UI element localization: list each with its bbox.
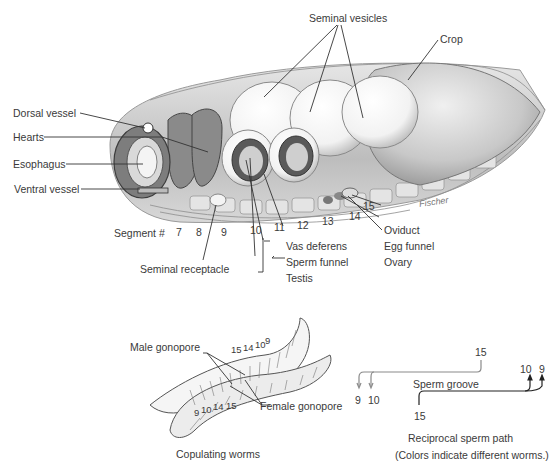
- sperm-path-top-end: 9: [355, 394, 361, 406]
- label-egg-funnel: Egg funnel: [384, 240, 434, 252]
- label-sperm-groove: Sperm groove: [413, 378, 479, 390]
- label-vas-deferens: Vas deferens: [286, 240, 347, 252]
- segment-number: 7: [176, 226, 182, 238]
- lower-segment-number: 10: [201, 404, 212, 416]
- label-crop: Crop: [440, 33, 463, 45]
- label-male-gonopore: Male gonopore: [130, 341, 200, 353]
- segment-number: 15: [363, 200, 375, 212]
- label-esophagus: Esophagus: [13, 158, 66, 170]
- segment-number: 11: [274, 221, 285, 233]
- label-testis: Testis: [286, 272, 313, 284]
- label-sperm-funnel: Sperm funnel: [286, 256, 348, 268]
- copulating-worms-drawing: [150, 318, 331, 438]
- caption-reciprocal-sperm-path: Reciprocal sperm path: [408, 432, 513, 444]
- caption-copulating-worms: Copulating worms: [176, 448, 260, 460]
- segment-number: 12: [297, 219, 309, 231]
- sperm-path-bottom-end: 10: [520, 363, 532, 375]
- upper-segment-number: 9: [265, 335, 270, 347]
- label-oviduct: Oviduct: [384, 224, 420, 236]
- note-colors: (Colors indicate different worms.): [395, 449, 549, 461]
- segment-number: 10: [250, 224, 262, 236]
- sperm-path-bottom-end: 9: [539, 363, 545, 375]
- label-seminal-vesicles: Seminal vesicles: [309, 12, 387, 24]
- segment-number: 14: [349, 210, 361, 222]
- segment-number: 13: [322, 215, 334, 227]
- upper-segment-number: 10: [255, 339, 266, 351]
- sperm-path-top-start: 15: [475, 346, 487, 358]
- label-ovary: Ovary: [384, 256, 412, 268]
- sperm-path-bottom-start: 15: [414, 410, 426, 422]
- label-segment: Segment #: [114, 227, 165, 239]
- lower-segment-number: 15: [226, 400, 237, 412]
- label-ventral-vessel: Ventral vessel: [14, 183, 79, 195]
- upper-segment-number: 15: [231, 344, 242, 356]
- label-dorsal-vessel: Dorsal vessel: [13, 107, 76, 119]
- lower-segment-number: 14: [213, 401, 224, 413]
- upper-segment-number: 14: [243, 342, 254, 354]
- label-female-gonopore: Female gonopore: [260, 400, 342, 412]
- segment-number: 9: [221, 226, 227, 238]
- segment-number: 8: [196, 226, 202, 238]
- label-seminal-receptacle: Seminal receptacle: [140, 263, 229, 275]
- label-hearts: Hearts: [13, 131, 44, 143]
- lower-segment-number: 9: [194, 407, 199, 419]
- dissected-worm-drawing: [110, 63, 545, 223]
- sperm-path-top-end: 10: [368, 394, 380, 406]
